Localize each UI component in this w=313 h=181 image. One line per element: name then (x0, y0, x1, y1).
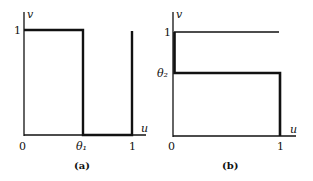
panel-b: v 1 θ₂ u 0 1 (b) (157, 8, 297, 171)
panel-a-path (24, 30, 132, 135)
panel-b-path (175, 32, 281, 136)
panel-a-y-tick-1: 1 (14, 24, 21, 37)
panel-b-x-tick-1: 1 (277, 140, 284, 153)
panel-b-caption: (b) (222, 160, 238, 171)
panel-b-y-label: v (176, 8, 183, 21)
panel-b-y-tick-theta2: θ₂ (157, 67, 168, 80)
panel-a-x-tick-0: 0 (19, 140, 26, 153)
panel-b-y-tick-1: 1 (164, 26, 171, 39)
panel-a-caption: (a) (74, 160, 90, 171)
panel-a-x-label: u (141, 122, 148, 135)
figure-canvas: v 1 u 0 θ₁ 1 (a) v 1 θ₂ u 0 1 (b) (0, 0, 313, 181)
panel-b-x-tick-0: 0 (168, 140, 175, 153)
panel-a: v 1 u 0 θ₁ 1 (a) (14, 8, 148, 171)
panel-a-x-tick-theta1: θ₁ (76, 140, 87, 153)
panel-b-x-label: u (290, 123, 297, 136)
panel-a-x-tick-1: 1 (129, 140, 136, 153)
panel-a-y-label: v (27, 8, 34, 21)
